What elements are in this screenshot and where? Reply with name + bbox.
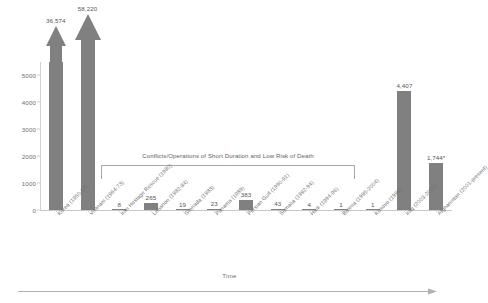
bar-group: 1 [325, 62, 357, 210]
x-axis-tick-mark [309, 210, 310, 212]
x-axis-tick-labels: Korea (1950-53)Vietnam (1964-73)Iran Hos… [40, 212, 452, 292]
x-axis-tick-mark [436, 210, 437, 212]
bar-value-label: 265 [146, 194, 157, 201]
x-axis-tick-mark [404, 210, 405, 212]
annotation-bracket [101, 165, 355, 179]
bar-group: 36,574 [40, 62, 72, 210]
bar-value-label: 4,407 [396, 82, 412, 89]
x-axis-tick-mark [246, 210, 247, 212]
bar-value-label: 4 [308, 201, 312, 208]
x-axis-tick-mark [341, 210, 342, 212]
bar-value-label: 36,574 [46, 17, 66, 24]
x-axis-tick-mark [56, 210, 57, 212]
x-axis-title: Time [0, 272, 459, 279]
x-axis-tick-mark [88, 210, 89, 212]
x-axis-tick-mark [214, 210, 215, 212]
bar-value-label: 43 [274, 200, 281, 207]
bar-value-label: 23 [211, 200, 218, 207]
x-axis-tick-mark [151, 210, 152, 212]
off-scale-arrow-icon [75, 14, 101, 62]
bar-series: 36,57458,22082651923383434114,4071,744* [40, 62, 452, 210]
bar-value-label: 58,220 [78, 5, 98, 12]
bar-value-label: 1 [339, 201, 343, 208]
bar-value-label: 1,744* [427, 154, 446, 161]
time-direction-arrow [18, 288, 438, 295]
x-axis-tick-mark [373, 210, 374, 212]
bar-value-label: 19 [179, 201, 186, 208]
plot-area: 010002000300040005000 36,57458,220826519… [40, 62, 452, 210]
bar-group: 4,407 [389, 62, 421, 210]
off-scale-arrow-icon [46, 26, 66, 62]
bar-value-label: 8 [117, 201, 121, 208]
x-axis-tick-mark [119, 210, 120, 212]
bar-group: 383 [230, 62, 262, 210]
x-axis-tick-mark [183, 210, 184, 212]
x-axis-tick-mark [278, 210, 279, 212]
bar [49, 62, 63, 210]
annotation-label: Conflicts/Operations of Short Duration a… [101, 152, 355, 159]
bar-value-label: 1 [371, 201, 375, 208]
